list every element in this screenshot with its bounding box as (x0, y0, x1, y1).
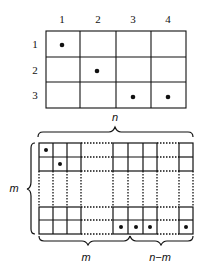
matrix-diagram: 1 2 3 4 1 2 3 (0, 0, 201, 272)
top-matrix-row-labels: 1 2 3 (32, 38, 38, 101)
row-label: 2 (32, 64, 38, 76)
bottom-matrix-dots (44, 148, 188, 229)
col-label: 2 (95, 13, 101, 25)
bottom-left-brace-label: m (81, 251, 90, 263)
dot-marker (119, 225, 123, 229)
row-label: 3 (32, 89, 38, 101)
dot-marker (58, 162, 62, 166)
bottom-left-brace (39, 236, 130, 245)
bottom-right-brace-label: n−m (149, 251, 171, 263)
left-brace (27, 143, 35, 234)
dot-marker (184, 225, 188, 229)
top-matrix-dots (60, 43, 171, 100)
col-label: 4 (165, 13, 171, 25)
top-matrix-col-labels: 1 2 3 4 (59, 13, 171, 25)
dot-marker (60, 43, 65, 48)
bottom-matrix (39, 143, 193, 234)
dot-marker (166, 95, 171, 100)
left-brace-label: m (9, 182, 18, 194)
bottom-right-brace (130, 236, 193, 245)
col-label: 3 (130, 13, 136, 25)
top-brace (38, 127, 193, 137)
dot-marker (134, 225, 138, 229)
dot-marker (95, 69, 100, 74)
top-matrix (46, 31, 186, 108)
top-brace-label: n (112, 111, 118, 123)
row-label: 1 (32, 38, 38, 50)
col-label: 1 (59, 13, 65, 25)
dot-marker (44, 148, 48, 152)
dot-marker (148, 225, 152, 229)
dot-marker (131, 95, 136, 100)
